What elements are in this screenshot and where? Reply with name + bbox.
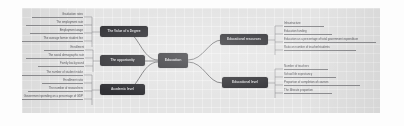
leaf-item[interactable]: Number of teachers: [284, 65, 328, 70]
branch-node-academic-level[interactable]: Academic level: [100, 84, 145, 95]
leaf-item[interactable]: Proportion of completion of courses: [284, 81, 360, 86]
leaf-item[interactable]: Infrastructure: [284, 22, 324, 27]
bracket-educational-resources: [268, 26, 283, 55]
leaf-item[interactable]: The social demographic rate: [26, 54, 84, 59]
connector-educational-level: [188, 62, 222, 83]
branch-node-educational-resources[interactable]: Educational resources: [220, 34, 268, 45]
leaf-item[interactable]: Family background: [38, 62, 84, 67]
leaf-item[interactable]: Enrollment ratio: [42, 79, 83, 84]
leaf-item[interactable]: Employment wage: [30, 29, 83, 34]
branch-node-value-of-a-degree[interactable]: The Value of a Degree: [100, 26, 148, 37]
branch-node-the-opportunity[interactable]: The opportunity: [100, 55, 145, 66]
leaf-item[interactable]: Education funding: [284, 30, 332, 35]
mindmap-page: Education The Value of a Degree The oppo…: [0, 0, 404, 126]
mindmap-canvas: Education The Value of a Degree The oppo…: [22, 8, 380, 113]
leaf-item[interactable]: The employment rate: [26, 21, 83, 26]
connector-educational-resources: [188, 40, 222, 60]
bracket-the-opportunity: [85, 50, 100, 72]
leaf-item[interactable]: Graduation rates: [32, 13, 83, 18]
leaf-item[interactable]: Enrollment: [44, 46, 84, 51]
leaf-item[interactable]: The number of researchers: [28, 87, 83, 92]
leaf-item[interactable]: The number of student intake: [22, 71, 83, 76]
leaf-item[interactable]: Ratio on number of teacher/students: [284, 46, 356, 51]
leaf-item[interactable]: Education as a percentage of total gover…: [284, 38, 376, 43]
leaf-item[interactable]: The average former student fee: [22, 37, 83, 42]
leaf-item[interactable]: Government spending on a percentage of G…: [22, 95, 83, 100]
bracket-educational-level: [268, 69, 283, 98]
bracket-value-of-a-degree: [84, 17, 100, 47]
leaf-item[interactable]: School life expectancy: [284, 73, 336, 78]
center-node[interactable]: Education: [158, 53, 188, 68]
leaf-item[interactable]: The illiterate proportion: [284, 89, 332, 94]
branch-node-educational-level[interactable]: Educational level: [222, 77, 268, 88]
bracket-academic-level: [84, 75, 100, 105]
